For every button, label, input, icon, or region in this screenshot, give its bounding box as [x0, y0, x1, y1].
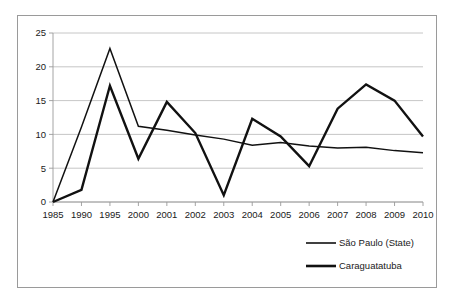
y-tick-label-20: 20 [35, 61, 46, 72]
series-line-sao-paulo-state [53, 49, 423, 202]
x-tick-label-1985: 1985 [42, 209, 63, 220]
legend-label-0: São Paulo (State) [339, 237, 414, 248]
legend-item-caraguatatuba[interactable]: Caraguatatuba [306, 260, 403, 271]
legend-label-1: Caraguatatuba [339, 260, 403, 271]
chart-container: 0510152025198519901995200020012002200320… [17, 15, 437, 288]
x-tick-label-1990: 1990 [71, 209, 92, 220]
y-tick-label-25: 25 [35, 27, 46, 38]
x-tick-label-2007: 2007 [327, 209, 348, 220]
x-tick-label-2008: 2008 [356, 209, 377, 220]
legend: São Paulo (State)Caraguatatuba [306, 237, 414, 271]
x-tick-label-2003: 2003 [213, 209, 234, 220]
x-tick-label-2002: 2002 [185, 209, 206, 220]
x-tick-label-2005: 2005 [270, 209, 291, 220]
x-tick-label-2001: 2001 [156, 209, 177, 220]
y-axis: 0510152025 [35, 27, 53, 207]
x-tick-label-2009: 2009 [384, 209, 405, 220]
x-tick-label-2000: 2000 [128, 209, 149, 220]
y-tick-label-0: 0 [41, 196, 46, 207]
gridlines [53, 33, 423, 202]
x-tick-label-2010: 2010 [412, 209, 433, 220]
y-tick-label-5: 5 [41, 163, 46, 174]
y-tick-label-10: 10 [35, 129, 46, 140]
y-tick-label-15: 15 [35, 95, 46, 106]
series-line-caraguatatuba [53, 84, 423, 202]
line-chart: 0510152025198519901995200020012002200320… [18, 16, 438, 289]
plot-area: 0510152025198519901995200020012002200320… [18, 16, 438, 289]
x-tick-label-2006: 2006 [299, 209, 320, 220]
series-group [53, 49, 423, 202]
x-tick-label-2004: 2004 [242, 209, 263, 220]
legend-item-sao-paulo-state[interactable]: São Paulo (State) [306, 237, 414, 248]
x-axis: 1985199019952000200120022003200420052006… [42, 202, 433, 220]
x-tick-label-1995: 1995 [99, 209, 120, 220]
